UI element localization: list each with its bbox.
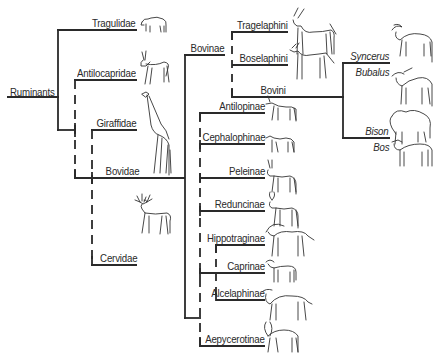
reduncinae-illustration xyxy=(269,192,298,228)
label-bison: Bison xyxy=(366,125,389,137)
label-hippotraginae: Hippotraginae xyxy=(207,232,265,244)
tragelaphini-illustration xyxy=(293,8,336,54)
label-tragelaphini: Tragelaphini xyxy=(237,19,288,31)
label-aepycerotinae: Aepycerotinae xyxy=(205,333,265,345)
alcelaphinae-illustration xyxy=(262,289,312,320)
peleinae-illustration xyxy=(267,160,296,194)
label-bovidae: Bovidae xyxy=(105,165,139,177)
antilopinae-illustration xyxy=(266,96,296,121)
label-bovini: Bovini xyxy=(261,84,286,96)
boselaphini-illustration xyxy=(290,43,334,79)
bubalus-illustration xyxy=(392,68,432,106)
label-syncerus: Syncerus xyxy=(350,50,389,62)
bison-illustration xyxy=(390,110,430,144)
label-bubalus: Bubalus xyxy=(355,66,389,78)
label-caprinae: Caprinae xyxy=(227,260,265,272)
label-giraffidae: Giraffidae xyxy=(96,117,136,129)
cervidae-illustration xyxy=(135,194,171,234)
tragulidae-illustration xyxy=(141,17,166,32)
label-antilopinae: Antilopinae xyxy=(219,100,265,112)
giraffidae-illustration xyxy=(142,92,171,175)
label-alcelaphinae: Alcelaphinae xyxy=(212,287,265,299)
label-boselaphini: Boselaphini xyxy=(240,52,288,64)
aepycerotinae-illustration xyxy=(264,322,298,352)
label-reduncinae: Reduncinae xyxy=(215,198,265,210)
hippotraginae-illustration xyxy=(266,224,314,256)
label-ruminants: Ruminants xyxy=(10,86,55,98)
label-peleinae: Peleinae xyxy=(229,165,265,177)
cephalophinae-illustration xyxy=(266,136,294,152)
caprinae-illustration xyxy=(266,260,296,282)
syncerus-illustration xyxy=(392,24,432,62)
label-antilocapridae: Antilocapridae xyxy=(77,67,136,79)
label-tragulidae: Tragulidae xyxy=(92,17,136,29)
bos-illustration xyxy=(392,140,432,166)
label-bovinae: Bovinae xyxy=(190,42,224,54)
label-cervidae: Cervidae xyxy=(100,252,137,264)
label-bos: Bos xyxy=(373,141,389,153)
antilocapridae-illustration xyxy=(141,51,169,84)
label-cephalophinae: Cephalophinae xyxy=(202,131,265,143)
